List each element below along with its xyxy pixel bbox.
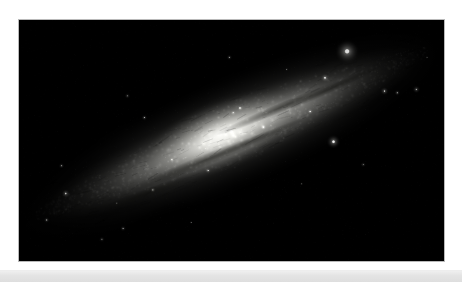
- footer-gap: [0, 262, 462, 270]
- footer-band-topline: [0, 270, 462, 271]
- footer-band: [0, 270, 462, 282]
- page-root: [0, 0, 462, 282]
- galaxy-photo-frame[interactable]: [18, 19, 445, 262]
- galaxy-photo-canvas: [19, 20, 444, 261]
